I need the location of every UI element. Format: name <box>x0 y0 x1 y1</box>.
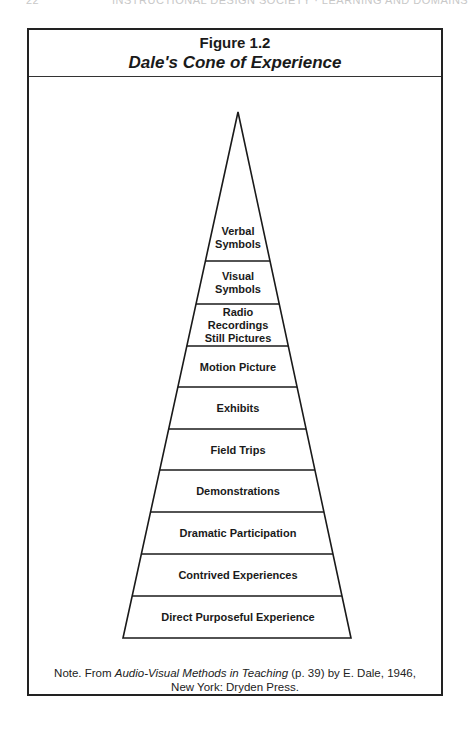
band-label: Demonstrations <box>196 485 280 497</box>
band-label: Dramatic Participation <box>180 527 297 539</box>
band-label: VerbalSymbols <box>215 225 261 250</box>
band-label: VisualSymbols <box>215 270 261 295</box>
band-label: Motion Picture <box>200 361 276 373</box>
band-label: Direct Purposeful Experience <box>161 611 314 623</box>
cone-outline <box>123 112 351 638</box>
band-label: Field Trips <box>210 444 265 456</box>
cone-of-experience: VerbalSymbolsVisualSymbolsRadioRecording… <box>123 112 351 638</box>
band-label: RadioRecordingsStill Pictures <box>205 306 272 344</box>
band-label: Exhibits <box>217 402 260 414</box>
band-label: Contrived Experiences <box>178 569 297 581</box>
